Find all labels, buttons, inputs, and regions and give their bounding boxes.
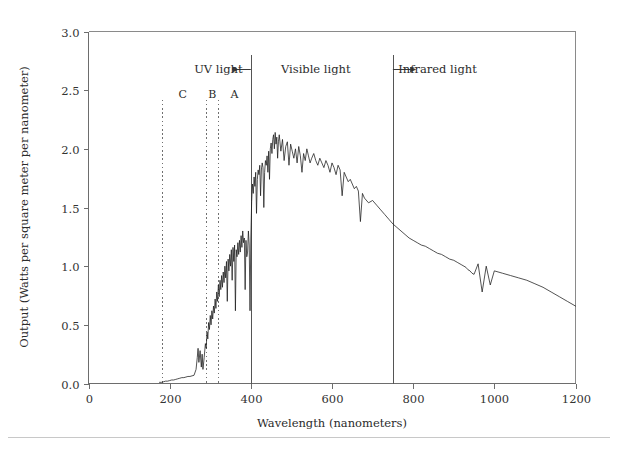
uv-light-label: UV light <box>194 62 243 76</box>
x-axis-ticks: 020040060080010001200 <box>86 384 591 406</box>
x-tick-label: 1000 <box>480 392 509 406</box>
x-tick-label: 0 <box>86 392 93 406</box>
plot-frame <box>89 32 576 384</box>
uv-c-label: C <box>178 88 186 101</box>
y-tick-label: 0.5 <box>61 319 79 333</box>
x-tick-label: 1200 <box>562 392 591 406</box>
uv-a-label: A <box>230 88 240 101</box>
spectrum-chart: 0.00.51.01.52.02.53.0 020040060080010001… <box>0 0 618 452</box>
y-axis-title: Output (Watts per square meter per nanom… <box>17 66 31 348</box>
visible-light-label: Visible light <box>280 62 351 76</box>
x-tick-label: 400 <box>241 392 263 406</box>
x-tick-label: 800 <box>403 392 425 406</box>
band-dividers <box>252 55 394 384</box>
x-tick-label: 600 <box>322 392 344 406</box>
uv-b-label: B <box>208 88 216 101</box>
y-tick-label: 0.0 <box>61 378 79 392</box>
y-tick-label: 2.0 <box>61 143 79 157</box>
y-tick-label: 1.0 <box>61 260 79 274</box>
y-tick-label: 2.5 <box>61 84 79 98</box>
y-tick-label: 3.0 <box>61 26 79 40</box>
spectrum-line <box>160 132 576 382</box>
y-tick-label: 1.5 <box>61 202 79 216</box>
x-tick-label: 200 <box>160 392 182 406</box>
infrared-light-label: Infrared light <box>398 62 477 76</box>
x-axis-title: Wavelength (nanometers) <box>257 416 407 430</box>
uv-sub-band-dividers <box>163 100 219 384</box>
solar-spectrum-figure: 0.00.51.01.52.02.53.0 020040060080010001… <box>0 0 618 452</box>
y-axis-ticks: 0.00.51.01.52.02.53.0 <box>61 26 88 392</box>
chart-annotations: UV lightVisible lightInfrared lightCBA <box>178 62 477 101</box>
